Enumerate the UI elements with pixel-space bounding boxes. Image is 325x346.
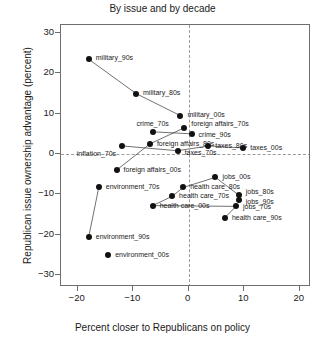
data-point[interactable] [181, 125, 187, 131]
x-tick-label: −10 [112, 292, 152, 303]
data-point-label: inflation_70s [77, 150, 116, 157]
data-point[interactable] [169, 193, 175, 199]
x-tick-mark [132, 286, 133, 291]
data-point-label: health care_00s [160, 202, 210, 209]
data-point-label: crime_90s [199, 131, 231, 138]
data-point[interactable] [233, 203, 239, 209]
y-tick-mark [55, 32, 60, 33]
x-tick-label: 10 [223, 292, 263, 303]
y-tick-label: 0 [14, 147, 54, 158]
data-point-label: jobs_80s [246, 188, 274, 195]
y-tick-label: −10 [14, 187, 54, 198]
data-point[interactable] [189, 131, 195, 137]
x-tick-mark [188, 286, 189, 291]
x-axis-label: Percent closer to Republicans on policy [0, 322, 325, 333]
data-point-label: military_00s [187, 111, 224, 118]
x-tick-label: −20 [57, 292, 97, 303]
connector-line [136, 94, 180, 116]
x-tick-mark [243, 286, 244, 291]
data-point[interactable] [175, 148, 181, 154]
data-point[interactable] [150, 129, 156, 135]
y-tick-mark [55, 193, 60, 194]
y-tick-mark [55, 72, 60, 73]
x-tick-mark [77, 286, 78, 291]
data-point-label: crime_70s [137, 120, 169, 127]
data-point[interactable] [222, 215, 228, 221]
y-tick-label: 20 [14, 66, 54, 77]
connector-line [89, 59, 136, 93]
data-point[interactable] [133, 91, 139, 97]
data-point-label: taxes_00s [250, 144, 282, 151]
data-point-label: taxes_70s [185, 149, 217, 156]
data-point[interactable] [86, 56, 92, 62]
data-point-label: health care_80s [190, 183, 240, 190]
data-point[interactable] [114, 167, 120, 173]
data-point[interactable] [180, 184, 186, 190]
data-point-label: military_90s [96, 54, 133, 61]
y-tick-mark [55, 234, 60, 235]
data-point-label: environment_90s [96, 233, 150, 240]
y-tick-label: 10 [14, 107, 54, 118]
y-tick-mark [55, 153, 60, 154]
data-point[interactable] [105, 252, 111, 258]
data-point-label: jobs_70s [243, 203, 271, 210]
data-point-label: environment_00s [115, 251, 169, 258]
y-tick-mark [55, 113, 60, 114]
connector-line [89, 187, 99, 236]
data-point-label: jobs_00s [222, 173, 250, 180]
data-point-label: foreign affairs_70s [191, 120, 248, 127]
data-point[interactable] [212, 174, 218, 180]
data-point[interactable] [150, 203, 156, 209]
data-point[interactable] [119, 143, 125, 149]
x-tick-label: 0 [168, 292, 208, 303]
data-point[interactable] [147, 141, 153, 147]
data-point-label: health care_90s [232, 214, 282, 221]
data-point-label: environment_70s [106, 183, 160, 190]
scatter-plot-figure: By issue and by decade Republican issue … [0, 0, 325, 346]
y-tick-label: 30 [14, 26, 54, 37]
y-tick-label: −20 [14, 228, 54, 239]
x-tick-mark [299, 286, 300, 291]
y-tick-label: −30 [14, 268, 54, 279]
y-tick-mark [55, 274, 60, 275]
data-point[interactable] [177, 113, 183, 119]
data-point-label: military_80s [143, 89, 180, 96]
data-point[interactable] [240, 145, 246, 151]
data-point-label: foreign affairs_00s [124, 166, 181, 173]
data-point[interactable] [236, 197, 242, 203]
data-point[interactable] [86, 234, 92, 240]
data-point-label: health care_70s [179, 192, 229, 199]
plot-area: military_90smilitary_80smilitary_00scrim… [60, 24, 310, 286]
chart-title: By issue and by decade [0, 3, 325, 14]
x-tick-label: 20 [279, 292, 319, 303]
data-point[interactable] [96, 184, 102, 190]
